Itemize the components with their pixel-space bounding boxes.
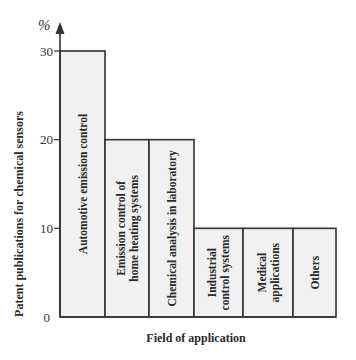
bar: Industrialcontrol systems <box>194 228 243 317</box>
y-tick-label: 0 <box>44 310 51 325</box>
bar: Emission control ofhome heating systems <box>105 140 149 317</box>
bar: Medicalapplications <box>243 228 293 317</box>
bar-category-label: Automotive emission control <box>77 114 89 254</box>
y-tick-label: 20 <box>40 132 53 147</box>
bar-category-label: Emission control ofhome heating systems <box>115 174 141 281</box>
x-axis-label: Field of application <box>146 331 246 345</box>
y-unit-label: % <box>38 17 51 33</box>
y-tick-label: 10 <box>40 221 53 236</box>
bar-category-label: Chemical analysis in laboratory <box>166 150 179 306</box>
bar: Automotive emission control <box>60 51 105 317</box>
bar: Others <box>293 228 336 317</box>
bar-category-label: Others <box>309 255 321 289</box>
y-axis-label: Patent publications for chemical sensors <box>12 111 26 317</box>
bar-chart: Automotive emission controlEmission cont… <box>0 0 356 360</box>
bars-group: Automotive emission controlEmission cont… <box>60 51 336 317</box>
bar: Chemical analysis in laboratory <box>149 140 194 317</box>
y-ticks-group: 0102030 <box>40 44 60 325</box>
y-tick-label: 30 <box>40 44 53 59</box>
y-axis-arrow-icon <box>56 22 65 34</box>
